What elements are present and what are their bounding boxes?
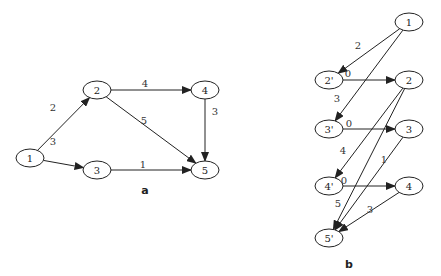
edges-b — [333, 29, 404, 232]
arrow-icon — [106, 97, 196, 163]
graph-a: 12345234531a — [16, 78, 219, 197]
node-4: 4 — [191, 81, 219, 99]
edge-1-to-3 — [43, 160, 83, 167]
node-2': 2' — [315, 71, 343, 89]
node-label: 2 — [94, 85, 100, 96]
edge-weight-label: 0 — [345, 68, 351, 79]
arrow-icon — [43, 160, 83, 167]
node-label: 4 — [202, 85, 208, 96]
node-3': 3' — [315, 120, 343, 138]
node-1: 1 — [395, 13, 423, 31]
node-3: 3 — [395, 120, 423, 138]
node-label: 5 — [202, 165, 208, 176]
edge-weight-label: 3 — [334, 93, 340, 104]
node-3: 3 — [83, 161, 111, 179]
edge-weight-label: 2 — [355, 40, 361, 51]
edge-weight-label: 3 — [50, 136, 56, 147]
edge-weight-label: 0 — [346, 118, 352, 129]
edge-weight-label: 0 — [341, 175, 347, 186]
edge-weight-label: 4 — [340, 145, 346, 156]
node-4': 4' — [315, 177, 343, 195]
edge-weight-label: 2 — [50, 102, 56, 113]
edge-weight-label: 3 — [212, 106, 218, 117]
node-label: 3' — [324, 124, 333, 135]
node-label: 4' — [324, 181, 333, 192]
node-label: 3 — [406, 124, 412, 135]
node-label: 2' — [324, 75, 333, 86]
node-2: 2 — [395, 71, 423, 89]
node-label: 1 — [27, 153, 33, 164]
edge-weight-label: 1 — [381, 154, 387, 165]
node-1: 1 — [16, 149, 44, 167]
arrow-icon — [37, 98, 89, 151]
diagram-caption-a: a — [141, 184, 148, 197]
node-label: 3 — [94, 165, 100, 176]
edge-weight-label: 5 — [335, 198, 341, 209]
node-5: 5 — [191, 161, 219, 179]
node-label: 2 — [406, 75, 412, 86]
edge-2-to-5 — [106, 97, 196, 163]
node-label: 1 — [406, 17, 412, 28]
node-2: 2 — [83, 81, 111, 99]
edge-weight-label: 1 — [140, 159, 146, 170]
edge-2-to-4' — [335, 88, 403, 178]
arrow-icon — [335, 88, 403, 178]
edge-weight-label: 3 — [367, 204, 373, 215]
node-5': 5' — [315, 229, 343, 247]
edge-weight-label: 4 — [142, 78, 148, 89]
node-label: 4 — [406, 181, 412, 192]
diagram-canvas: 12345234531a 12'23'34'45'230040153b — [0, 0, 441, 276]
node-4: 4 — [395, 177, 423, 195]
graph-b: 12'23'34'45'230040153b — [315, 13, 423, 271]
edges-a — [37, 90, 205, 170]
diagram-caption-b: b — [345, 258, 353, 271]
nodes-a: 12345 — [16, 81, 219, 179]
edge-1-to-2 — [37, 98, 89, 151]
node-label: 5' — [324, 233, 333, 244]
edge-weight-label: 5 — [141, 115, 147, 126]
